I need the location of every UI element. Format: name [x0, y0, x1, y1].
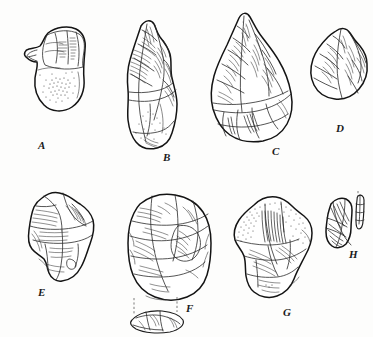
specimen-h-profile-view: [356, 191, 364, 229]
figure-label-f: F: [186, 303, 194, 314]
specimen-c-drawing: [211, 13, 292, 141]
specimen-h-drawing: [326, 191, 364, 248]
specimen-d-drawing: [311, 29, 367, 100]
specimen-b-drawing: [127, 21, 177, 149]
specimen-g-drawing: [234, 197, 312, 298]
figure-label-g: G: [283, 307, 291, 318]
figure-label-d: D: [336, 123, 344, 134]
figure-label-a: A: [38, 140, 46, 151]
figure-label-e: E: [38, 287, 46, 298]
plate-illustration: [0, 0, 373, 337]
specimen-f-cross-section: [131, 311, 184, 333]
specimen-a-drawing: [25, 27, 86, 111]
specimen-f-drawing: [128, 194, 211, 333]
figure-label-c: C: [272, 146, 280, 157]
specimen-e-drawing: [28, 193, 93, 282]
figure-label-h: H: [349, 249, 358, 260]
stone-tool-plate: A B C D E F G H: [0, 0, 373, 337]
figure-label-b: B: [163, 152, 171, 163]
